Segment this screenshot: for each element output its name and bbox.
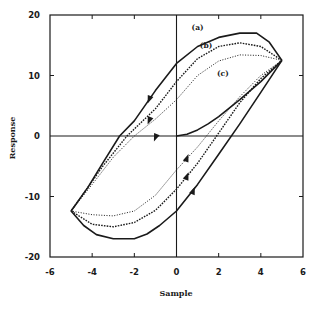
y-tick-label: -20 (25, 252, 40, 262)
arrow-layer (148, 95, 195, 195)
x-tick-label: 0 (174, 267, 180, 277)
x-axis-title: Sample (159, 288, 192, 298)
axis-ticks: -6-4-20246-20-1001020 (25, 10, 306, 277)
direction-arrow-icon (183, 172, 189, 181)
x-tick-label: -2 (130, 267, 140, 277)
direction-arrow-icon (183, 154, 189, 163)
x-tick-label: 6 (300, 267, 306, 277)
y-tick-label: 10 (28, 71, 40, 81)
curve-label: (c) (217, 69, 229, 78)
hysteresis-chart: -6-4-20246-20-1001020 (a)(b)(c) Sample R… (0, 0, 315, 309)
y-axis-title: Response (7, 117, 17, 160)
curve-label: (b) (200, 41, 212, 50)
y-tick-label: 0 (34, 131, 40, 141)
direction-arrow-icon (148, 116, 154, 125)
x-tick-label: 2 (216, 267, 222, 277)
x-tick-label: -6 (45, 267, 55, 277)
direction-arrow-icon (154, 133, 160, 142)
curve-label: (a) (192, 23, 204, 32)
y-tick-label: 20 (28, 10, 40, 20)
annotation-layer: (a)(b)(c) (192, 23, 229, 77)
series-initial (177, 60, 282, 136)
x-tick-label: 4 (258, 267, 264, 277)
y-tick-label: -10 (25, 192, 40, 202)
direction-arrow-icon (148, 95, 154, 104)
x-tick-label: -4 (87, 267, 97, 277)
